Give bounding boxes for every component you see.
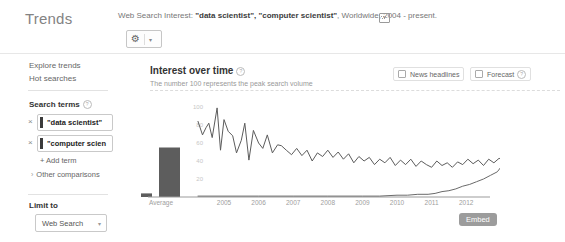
chevron-down-icon: ▾ xyxy=(144,34,156,45)
y-tick-label: 60 xyxy=(196,140,203,146)
help-icon[interactable]: ? xyxy=(236,67,245,76)
x-tick-label: 2005 xyxy=(217,199,232,206)
sidebar-divider xyxy=(28,90,108,91)
chart-title: Interest over time? xyxy=(150,65,245,76)
x-tick-label: 2009 xyxy=(355,199,370,206)
x-tick-label: 2011 xyxy=(425,199,439,206)
y-tick-label: 20 xyxy=(196,176,203,182)
trends-logo[interactable]: Trends xyxy=(25,10,72,27)
forecast-help-icon[interactable]: ? xyxy=(517,70,526,79)
interest-over-time-chart[interactable]: Average204060801002005200620072008200920… xyxy=(140,98,500,214)
series-color-swatch xyxy=(40,138,43,149)
x-tick-label: 2008 xyxy=(321,199,336,206)
query-prefix: Web Search Interest: xyxy=(118,11,195,20)
input-tools-icon[interactable] xyxy=(379,13,390,23)
limit-to-title: Limit to xyxy=(29,201,58,210)
checkbox-icon xyxy=(475,70,483,78)
help-icon[interactable]: ? xyxy=(83,100,92,109)
search-terms-title: Search terms? xyxy=(29,100,92,109)
query-terms: "data scientist", "computer scientist" xyxy=(195,11,337,20)
y-tick-label: 40 xyxy=(196,158,203,164)
select-value: Web Search xyxy=(42,219,83,228)
remove-term-icon[interactable]: × xyxy=(28,117,33,126)
checkbox-icon xyxy=(398,70,406,78)
series-line[interactable] xyxy=(198,108,500,167)
chart-subtitle: The number 100 represents the peak searc… xyxy=(150,80,313,87)
average-label: Average xyxy=(149,199,173,207)
term-label: "data scientist" xyxy=(47,118,102,127)
embed-button[interactable]: Embed xyxy=(459,213,497,226)
sidebar-item-explore-trends[interactable]: Explore trends xyxy=(29,61,81,70)
average-bar[interactable] xyxy=(159,148,180,198)
x-tick-label: 2007 xyxy=(286,199,301,206)
term-chip[interactable]: "data scientist" xyxy=(37,114,113,131)
sidebar-item-hot-searches[interactable]: Hot searches xyxy=(29,74,76,83)
series-line[interactable] xyxy=(198,154,500,196)
remove-term-icon[interactable]: × xyxy=(28,138,33,147)
header-divider xyxy=(0,53,565,54)
term-chip[interactable]: "computer scien xyxy=(37,135,113,152)
gear-icon: ⚙ xyxy=(127,34,144,44)
y-tick-label: 100 xyxy=(193,104,204,110)
main-divider xyxy=(150,90,560,91)
chevron-right-icon: › xyxy=(31,171,33,178)
forecast-checkbox[interactable]: Forecast ? xyxy=(470,67,531,81)
x-tick-label: 2006 xyxy=(251,199,266,206)
term-label: "computer scien xyxy=(47,139,106,148)
other-comparisons-link[interactable]: ›Other comparisons xyxy=(31,170,100,179)
sidebar-divider xyxy=(28,194,108,195)
news-headlines-checkbox[interactable]: News headlines xyxy=(393,67,464,81)
web-search-select[interactable]: Web Search ▾ xyxy=(35,214,107,232)
x-tick-label: 2012 xyxy=(459,199,474,206)
chevron-down-icon: ▾ xyxy=(98,220,101,227)
series-color-swatch xyxy=(40,117,43,128)
add-term-button[interactable]: + Add term xyxy=(40,156,76,165)
settings-dropdown-button[interactable]: ⚙ ▾ xyxy=(126,30,162,48)
x-tick-label: 2010 xyxy=(390,199,405,206)
